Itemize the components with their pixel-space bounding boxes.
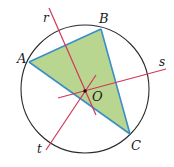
label-r: r xyxy=(43,11,50,25)
label-a: A xyxy=(16,51,26,66)
label-b: B xyxy=(98,11,109,26)
label-s: s xyxy=(159,55,165,69)
label-o: O xyxy=(92,89,103,104)
center-point-o xyxy=(83,89,87,93)
label-c: C xyxy=(131,138,141,153)
circumcircle-diagram: A B C O r s t xyxy=(0,0,174,167)
label-t: t xyxy=(37,142,42,156)
